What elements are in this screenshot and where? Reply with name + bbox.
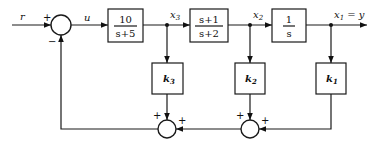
x3-label: x3 xyxy=(170,9,181,22)
sum-k3-top-plus: + xyxy=(153,110,161,121)
block-10-over-s-plus-5: 10 s+5 xyxy=(108,9,143,42)
input-label: r xyxy=(20,11,26,22)
block-s-plus-1-over-s-plus-2: s+1 s+2 xyxy=(190,9,228,42)
summing-junction-k3 xyxy=(158,120,176,138)
block1-numerator: 10 xyxy=(119,14,132,25)
block1-denominator: s+5 xyxy=(116,28,136,39)
gain-k3: k3 xyxy=(152,63,183,94)
sum-k2-top-plus: + xyxy=(236,110,244,121)
k1-to-sum-wire xyxy=(259,94,331,129)
block2-denominator: s+2 xyxy=(199,28,219,39)
control-label: u xyxy=(84,12,90,23)
summing-junction-main xyxy=(51,15,71,35)
sum-k2-right-plus: + xyxy=(261,115,269,126)
block-diagram: r + − u 10 s+5 x3 s+1 s+2 x2 1 s x1 = y xyxy=(0,0,377,146)
block-integrator: 1 s xyxy=(272,9,306,42)
block2-numerator: s+1 xyxy=(199,14,219,25)
gain-k2: k2 xyxy=(235,63,265,94)
sum-main-plus-sign: + xyxy=(43,12,51,23)
block3-numerator: 1 xyxy=(286,14,292,25)
block3-denominator: s xyxy=(286,28,291,39)
sum-k3-right-plus: + xyxy=(178,115,186,126)
x2-label: x2 xyxy=(253,9,264,22)
gain-k1: k1 xyxy=(316,63,346,94)
output-label: x1 = y xyxy=(334,9,365,22)
summing-junction-k2 xyxy=(241,120,259,138)
feedback-wire xyxy=(61,35,158,129)
sum-main-minus-sign: − xyxy=(48,36,56,47)
